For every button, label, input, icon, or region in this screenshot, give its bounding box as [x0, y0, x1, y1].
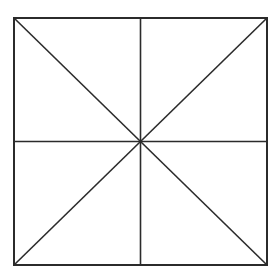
divided-square-diagram	[0, 0, 279, 280]
dividing-lines	[14, 18, 267, 265]
